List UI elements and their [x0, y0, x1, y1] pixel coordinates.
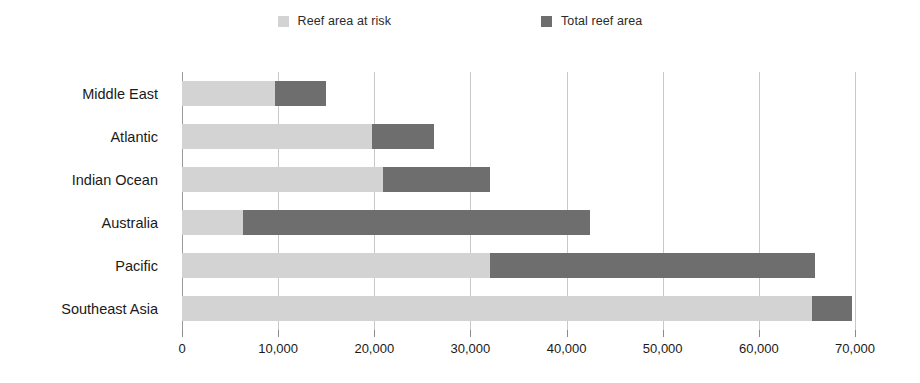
legend-item-total-reef-area[interactable]: Total reef area	[541, 14, 642, 28]
x-tick-0	[182, 330, 183, 337]
x-tick-label-50000: 50,000	[643, 341, 683, 356]
x-tick-40000	[567, 330, 568, 337]
bar-segment-at-risk[interactable]	[182, 253, 490, 278]
stacked-bar[interactable]	[182, 296, 852, 321]
y-axis-category-labels: Middle EastAtlanticIndian OceanAustralia…	[0, 72, 170, 330]
x-axis: 010,00020,00030,00040,00050,00060,00070,…	[182, 330, 855, 370]
x-tick-50000	[663, 330, 664, 337]
stacked-bar[interactable]	[182, 167, 490, 192]
x-tick-label-10000: 10,000	[258, 341, 298, 356]
bar-segment-total[interactable]	[812, 296, 852, 321]
bar-row	[182, 244, 855, 287]
legend-label-at-risk: Reef area at risk	[298, 14, 391, 28]
legend-item-reef-area-at-risk[interactable]: Reef area at risk	[278, 14, 391, 28]
bar-segment-at-risk[interactable]	[182, 81, 275, 106]
bar-row	[182, 72, 855, 115]
x-tick-30000	[470, 330, 471, 337]
bar-segment-total[interactable]	[383, 167, 490, 192]
legend-swatch-at-risk	[278, 16, 289, 27]
x-tick-label-40000: 40,000	[547, 341, 587, 356]
x-tick-label-0: 0	[178, 341, 185, 356]
bar-row	[182, 115, 855, 158]
bar-series-group	[182, 72, 855, 330]
bar-segment-total[interactable]	[490, 253, 815, 278]
legend-label-total: Total reef area	[561, 14, 642, 28]
bar-row	[182, 287, 855, 330]
legend-swatch-total	[541, 16, 552, 27]
bar-segment-at-risk[interactable]	[182, 210, 243, 235]
gridline-70000	[855, 72, 856, 330]
stacked-bar[interactable]	[182, 124, 434, 149]
y-axis-label-middle-east: Middle East	[82, 72, 158, 115]
y-axis-label-atlantic: Atlantic	[110, 115, 158, 158]
bar-row	[182, 201, 855, 244]
chart-legend: Reef area at risk Total reef area	[0, 14, 920, 28]
bar-segment-total[interactable]	[243, 210, 590, 235]
y-axis-label-southeast-asia: Southeast Asia	[61, 287, 158, 330]
x-tick-label-20000: 20,000	[354, 341, 394, 356]
x-tick-20000	[374, 330, 375, 337]
bar-segment-at-risk[interactable]	[182, 124, 372, 149]
bar-segment-at-risk[interactable]	[182, 296, 812, 321]
reef-area-bar-chart: Reef area at risk Total reef area Middle…	[0, 0, 920, 383]
y-axis-label-indian-ocean: Indian Ocean	[72, 158, 158, 201]
y-axis-label-australia: Australia	[102, 201, 158, 244]
x-tick-70000	[855, 330, 856, 337]
plot-area	[182, 72, 855, 330]
y-axis-label-pacific: Pacific	[115, 244, 158, 287]
bar-row	[182, 158, 855, 201]
bar-segment-at-risk[interactable]	[182, 167, 383, 192]
stacked-bar[interactable]	[182, 210, 590, 235]
stacked-bar[interactable]	[182, 253, 815, 278]
x-tick-10000	[278, 330, 279, 337]
bar-segment-total[interactable]	[372, 124, 434, 149]
x-tick-60000	[759, 330, 760, 337]
x-tick-label-60000: 60,000	[739, 341, 779, 356]
x-tick-label-70000: 70,000	[835, 341, 875, 356]
stacked-bar[interactable]	[182, 81, 326, 106]
x-tick-label-30000: 30,000	[451, 341, 491, 356]
bar-segment-total[interactable]	[275, 81, 326, 106]
